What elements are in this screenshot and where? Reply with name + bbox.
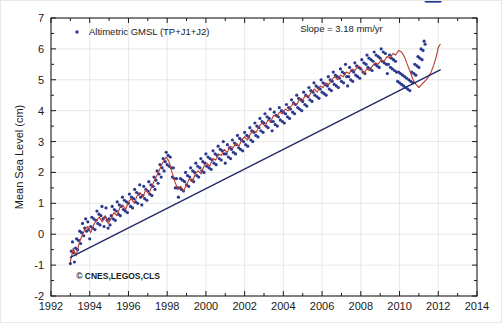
data-point — [234, 152, 237, 155]
data-point — [344, 63, 347, 66]
data-point — [273, 111, 276, 114]
data-point — [284, 112, 287, 115]
data-point — [222, 140, 225, 143]
data-point — [224, 162, 227, 165]
data-point — [162, 169, 165, 172]
x-axis-tick-label: 2004 — [271, 300, 295, 312]
data-point — [236, 134, 239, 137]
legend-marker-icon — [75, 30, 78, 33]
data-point — [394, 60, 397, 63]
data-point — [310, 100, 313, 103]
data-point — [269, 108, 272, 111]
y-axis-title: Mean Sea Level (cm) — [13, 105, 25, 210]
data-point — [266, 126, 269, 129]
data-point — [325, 94, 328, 97]
data-point — [194, 162, 197, 165]
x-axis-tick-label: 2010 — [387, 300, 411, 312]
data-point — [99, 214, 102, 217]
data-point — [197, 175, 200, 178]
data-point — [108, 223, 111, 226]
y-axis-tick-label: 2 — [38, 166, 44, 178]
data-point — [116, 200, 119, 203]
data-point — [156, 182, 159, 185]
data-point — [365, 53, 368, 56]
data-point — [417, 66, 420, 69]
data-point — [380, 47, 383, 50]
data-point — [242, 140, 245, 143]
chart-canvas: 1992199419961998200020022004200620082010… — [1, 1, 502, 323]
data-point — [408, 89, 411, 92]
data-point — [243, 131, 246, 134]
data-point — [342, 81, 345, 84]
scatter-series-points — [69, 1, 442, 265]
data-point — [142, 185, 145, 188]
data-point — [386, 72, 389, 75]
data-point — [424, 43, 427, 46]
data-point — [347, 75, 350, 78]
data-point — [211, 149, 214, 152]
data-point — [81, 222, 84, 225]
data-point — [327, 75, 330, 78]
data-point — [302, 91, 305, 94]
data-point — [339, 67, 342, 70]
data-point — [423, 40, 426, 43]
y-axis-tick-label: 5 — [38, 74, 44, 86]
data-point — [215, 163, 218, 166]
data-point — [198, 166, 201, 169]
data-point — [115, 209, 118, 212]
data-point — [114, 219, 117, 222]
data-point — [111, 205, 114, 208]
data-point — [278, 106, 281, 109]
x-axis-tick-label: 2008 — [349, 300, 373, 312]
data-point — [320, 78, 323, 81]
data-point — [172, 166, 175, 169]
data-point — [160, 175, 163, 178]
trend-line — [70, 70, 440, 258]
data-point — [229, 157, 232, 160]
data-point — [88, 237, 91, 240]
data-point — [378, 66, 381, 69]
y-axis-tick-label: 3 — [38, 136, 44, 148]
data-point — [177, 196, 180, 199]
data-point — [153, 188, 156, 191]
data-point — [147, 180, 150, 183]
x-axis-tick-label: 2006 — [310, 300, 334, 312]
data-point — [420, 58, 423, 61]
data-point — [226, 143, 229, 146]
data-point — [246, 145, 249, 148]
x-axis-tick-label: 2014 — [465, 300, 489, 312]
data-point — [253, 121, 256, 124]
data-point — [98, 223, 101, 226]
sea-level-chart-figure: 1992199419961998200020022004200620082010… — [0, 0, 502, 323]
data-point — [183, 180, 186, 183]
data-point — [95, 209, 98, 212]
data-point — [276, 125, 279, 128]
data-point — [353, 61, 356, 64]
data-point — [145, 199, 148, 202]
x-axis-tick-label: 2000 — [194, 300, 218, 312]
data-point — [217, 145, 220, 148]
data-point — [184, 171, 187, 174]
x-axis-tick-label: 1998 — [155, 300, 179, 312]
data-point — [351, 80, 354, 83]
data-point — [138, 183, 141, 186]
data-point — [150, 194, 153, 197]
data-point — [348, 66, 351, 69]
data-point — [251, 140, 254, 143]
data-point — [119, 214, 122, 217]
data-point — [100, 205, 103, 208]
data-point — [387, 63, 390, 66]
data-point — [317, 97, 320, 100]
data-point — [202, 171, 205, 174]
slope-annotation: Slope = 3.18 mm/yr — [300, 23, 383, 34]
x-axis-tick-label: 1996 — [116, 300, 140, 312]
y-axis-tick-label: 1 — [38, 197, 44, 209]
data-point — [104, 206, 107, 209]
data-point — [364, 63, 367, 66]
data-point — [421, 49, 424, 52]
data-point — [121, 196, 124, 199]
data-point — [187, 185, 190, 188]
credit-annotation: © CNES,LEGOS,CLS — [76, 271, 160, 281]
y-axis-tick-label: 0 — [38, 228, 44, 240]
data-point — [231, 138, 234, 141]
